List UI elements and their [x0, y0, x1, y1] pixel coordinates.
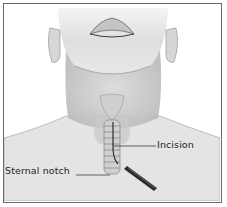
- sternal-notch-label: Sternal notch: [5, 165, 70, 176]
- trachea: [104, 120, 120, 174]
- incision-label: Incision: [157, 139, 194, 150]
- right-ear: [166, 28, 178, 62]
- left-ear: [48, 28, 60, 62]
